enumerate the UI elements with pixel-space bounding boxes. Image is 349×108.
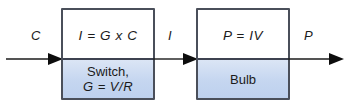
flow-label-input: C — [31, 28, 40, 43]
block-equation-area-switch: I = G x C — [63, 10, 153, 60]
block-equation-area-bulb: P = IV — [198, 10, 288, 60]
block-name-switch: Switch, — [87, 64, 129, 79]
block-label-area-bulb: Bulb — [198, 58, 288, 98]
block-equation-switch: I = G x C — [78, 28, 137, 43]
flow-label-middle: I — [168, 28, 172, 43]
block-parameter-switch: G = V/R — [83, 79, 133, 95]
process-block-switch[interactable]: I = G x C Switch, G = V/R — [61, 8, 155, 100]
flow-arrow-middle — [153, 52, 198, 66]
block-label-area-switch: Switch, G = V/R — [63, 58, 153, 98]
process-block-bulb[interactable]: P = IV Bulb — [196, 8, 290, 100]
flow-label-output: P — [304, 28, 313, 43]
block-equation-bulb: P = IV — [223, 28, 263, 43]
block-name-bulb: Bulb — [230, 72, 256, 87]
flow-arrow-input — [6, 52, 63, 66]
diagram-canvas: C I = G x C Switch, G = V/R I P = IV Bul… — [0, 0, 349, 108]
flow-arrow-output — [288, 52, 344, 66]
